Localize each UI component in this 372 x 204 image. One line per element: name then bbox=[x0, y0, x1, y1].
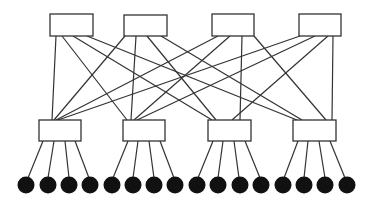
edge-host-link bbox=[198, 141, 213, 178]
edge-switch bbox=[123, 120, 165, 141]
core-edge-link bbox=[332, 36, 333, 120]
core-edge-link bbox=[240, 36, 242, 120]
core-edge-link bbox=[131, 36, 136, 120]
edge-host-link bbox=[284, 141, 298, 178]
host-node bbox=[317, 177, 334, 194]
edge-host-link bbox=[330, 141, 345, 178]
host-node bbox=[167, 177, 184, 194]
edge-host-link bbox=[319, 141, 325, 178]
host-node bbox=[253, 177, 270, 194]
host-node bbox=[339, 177, 356, 194]
edge-host-link bbox=[245, 141, 260, 178]
edge-host-link bbox=[133, 141, 138, 178]
edge-switch bbox=[208, 120, 251, 141]
core-switch-layer bbox=[50, 14, 341, 36]
edge-host-link bbox=[28, 141, 43, 178]
edge-host-link bbox=[65, 141, 69, 178]
edge-switch-layer bbox=[39, 120, 336, 141]
host-node bbox=[40, 177, 57, 194]
host-node bbox=[232, 177, 249, 194]
fat-tree-diagram bbox=[0, 0, 372, 204]
edge-host-link bbox=[304, 141, 308, 178]
edge-switch bbox=[293, 120, 336, 141]
edge-switch bbox=[39, 120, 81, 141]
edge-host-link bbox=[218, 141, 223, 178]
host-node bbox=[210, 177, 227, 194]
edge-host-link bbox=[234, 141, 239, 178]
host-node bbox=[146, 177, 163, 194]
host-node bbox=[18, 177, 35, 194]
edge-host-links bbox=[28, 141, 345, 178]
host-node bbox=[275, 177, 292, 194]
core-edge-link bbox=[56, 36, 218, 120]
edge-host-link bbox=[149, 141, 154, 178]
edge-host-link bbox=[48, 141, 54, 178]
host-node bbox=[125, 177, 142, 194]
core-switch bbox=[212, 14, 254, 36]
core-switch bbox=[124, 15, 167, 36]
host-node bbox=[296, 177, 313, 194]
host-node bbox=[189, 177, 206, 194]
host-node bbox=[104, 177, 121, 194]
edge-host-link bbox=[75, 141, 89, 178]
core-edge-link bbox=[54, 36, 125, 120]
edge-host-link bbox=[160, 141, 174, 178]
host-node bbox=[82, 177, 99, 194]
core-edge-links bbox=[52, 36, 333, 120]
core-edge-link bbox=[137, 36, 315, 120]
host-node bbox=[61, 177, 78, 194]
edge-host-link bbox=[113, 141, 128, 178]
host-layer bbox=[18, 177, 356, 194]
core-edge-link bbox=[52, 36, 56, 120]
core-switch bbox=[50, 14, 93, 36]
core-switch bbox=[299, 14, 341, 36]
